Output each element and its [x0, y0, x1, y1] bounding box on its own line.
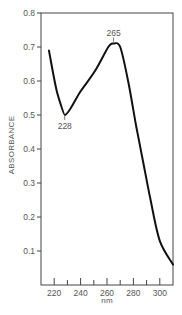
y-tick-label: 0.8: [23, 8, 35, 18]
y-axis-ticks: 0.10.20.30.40.50.60.70.8: [23, 8, 41, 256]
y-tick-label: 0.1: [23, 246, 35, 256]
absorbance-chart: 0.10.20.30.40.50.60.70.8 220240260280300…: [0, 0, 182, 315]
x-axis-ticks: 220240260280300: [47, 278, 167, 298]
peak-annotation: 265: [107, 28, 121, 38]
y-tick-label: 0.3: [23, 178, 35, 188]
x-tick-label: 240: [74, 288, 88, 298]
y-axis-title: ABSORBANCE: [7, 116, 16, 175]
y-tick-label: 0.7: [23, 42, 35, 52]
plot-border: [41, 13, 173, 285]
y-tick-label: 0.2: [23, 212, 35, 222]
plot-frame: [41, 13, 173, 285]
x-tick-label: 220: [47, 288, 61, 298]
y-tick-label: 0.5: [23, 110, 35, 120]
y-tick-label: 0.6: [23, 76, 35, 86]
x-axis-title: nm: [101, 296, 113, 305]
y-tick-label: 0.4: [23, 144, 35, 154]
absorbance-curve: [49, 43, 173, 265]
min-annotation: 228: [58, 121, 72, 131]
x-tick-label: 300: [153, 288, 167, 298]
x-tick-label: 280: [126, 288, 140, 298]
